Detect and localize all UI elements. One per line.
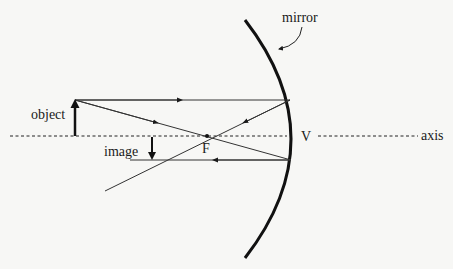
object-arrow: [71, 99, 80, 136]
image-label: image: [104, 144, 138, 159]
ray-diagram: mirror object image F V axis: [0, 0, 453, 269]
mirror-pointer-arrow: [279, 27, 302, 49]
focal-point-label: F: [202, 141, 210, 156]
vertex-label: V: [301, 129, 311, 144]
axis-label: axis: [421, 128, 444, 143]
object-label: object: [31, 107, 65, 122]
focal-point-dot: [205, 134, 209, 138]
concave-mirror: [245, 20, 291, 258]
image-arrow: [148, 137, 156, 160]
mirror-label: mirror: [282, 10, 318, 25]
